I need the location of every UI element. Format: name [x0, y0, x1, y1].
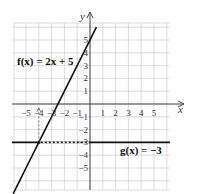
- x-tick-label: 1: [101, 108, 106, 118]
- y-tick-label: 3: [84, 61, 89, 71]
- x-tick-label: −3: [47, 108, 57, 118]
- y-tick-label: −4: [78, 150, 88, 160]
- y-tick-label: 2: [84, 73, 89, 83]
- y-tick-label: 5: [84, 35, 89, 45]
- x-tick-label: −5: [21, 108, 31, 118]
- y-tick-label: −3: [78, 137, 88, 147]
- y-tick-label: 4: [84, 48, 89, 58]
- x-tick-label: 2: [113, 108, 118, 118]
- grid: [14, 23, 170, 190]
- y-tick-label: −1: [78, 112, 88, 122]
- g-function-label: g(x) = −3: [120, 144, 162, 157]
- x-tick-label: −2: [60, 108, 70, 118]
- f-function-label: f(x) = 2x + 5: [17, 55, 74, 68]
- axes: [12, 12, 184, 190]
- x-axis-label: x: [177, 103, 183, 115]
- x-tick-label: 5: [152, 108, 157, 118]
- x-tick-label: −4: [34, 108, 44, 118]
- graph: −5−4−3−2−11234554321−1−2−3−4−5 y x f(x) …: [0, 0, 198, 194]
- y-tick-label: −5: [78, 163, 88, 173]
- y-axis-label: y: [79, 10, 85, 22]
- y-tick-label: −2: [78, 125, 88, 135]
- intersection-point: [37, 141, 40, 144]
- y-tick-label: 1: [84, 86, 89, 96]
- x-tick-label: 3: [126, 108, 131, 118]
- x-tick-label: 4: [139, 108, 144, 118]
